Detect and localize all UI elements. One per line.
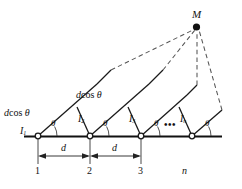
- label-spacing-d-1: d: [61, 143, 66, 153]
- label-index-n: n: [182, 166, 187, 176]
- figure-container: M dcos θ dcos θ I1 I2 I3 In θ θ θ θ ••• …: [0, 0, 242, 189]
- label-angle-4: θ: [205, 119, 209, 128]
- source-node-n: [189, 133, 195, 139]
- label-path-difference-2: dcos θ: [76, 90, 102, 100]
- label-index-1: 1: [35, 166, 40, 176]
- label-source-2: I2: [78, 114, 84, 124]
- dimension-arrowhead-right-1: [82, 153, 90, 158]
- dimension-arrowhead-right-2: [133, 153, 141, 158]
- label-path-difference-1: dcos θ: [4, 108, 30, 118]
- dimension-arrowhead-left-2: [90, 153, 98, 158]
- source-node-1: [35, 133, 41, 139]
- source-3-sub: 3: [132, 118, 135, 124]
- dimension-arrowhead-left-1: [38, 153, 46, 158]
- dashed-ray-source-1-to-M: [111, 29, 195, 70]
- pd2-theta: θ: [97, 89, 102, 100]
- dashed-ray-source-n-to-M: [199, 30, 222, 110]
- label-source-1: I1: [20, 126, 26, 136]
- wavefront-connector-2: [149, 70, 163, 84]
- label-source-3: I3: [129, 114, 135, 124]
- label-index-3: 3: [138, 166, 143, 176]
- label-angle-2: θ: [103, 119, 107, 128]
- source-node-3: [138, 133, 144, 139]
- source-n-sub: n: [183, 118, 186, 124]
- diagram-canvas: [0, 0, 242, 189]
- dashed-ray-source-2-to-M: [163, 30, 195, 70]
- ellipsis-dots: •••: [164, 120, 176, 130]
- label-angle-1: θ: [51, 119, 55, 128]
- label-spacing-d-2: d: [112, 143, 117, 153]
- wavefront-connector-1: [97, 70, 111, 84]
- pd2-cos: cos: [81, 89, 94, 100]
- source-node-2: [87, 133, 93, 139]
- label-angle-3: θ: [154, 119, 158, 128]
- source-2-sub: 2: [81, 118, 84, 124]
- observation-point-M: [193, 23, 200, 30]
- label-point-M: M: [192, 9, 201, 20]
- wavefront-connector-3: [187, 85, 197, 95]
- source-1-sub: 1: [23, 130, 26, 136]
- label-source-n: In: [180, 114, 186, 124]
- label-index-2: 2: [87, 166, 92, 176]
- pd1-theta: θ: [25, 107, 30, 118]
- pd1-cos: cos: [9, 107, 22, 118]
